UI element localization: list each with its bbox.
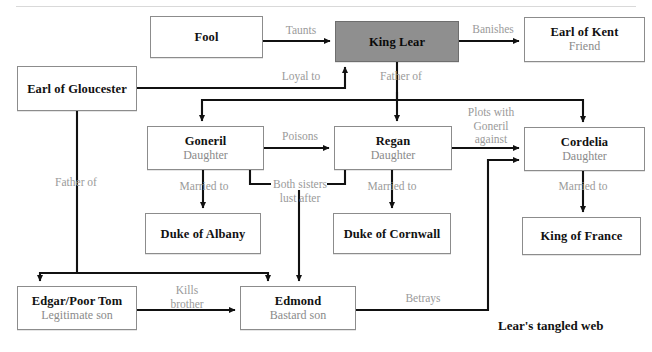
diagram-canvas: Fool King Lear Earl of Kent Friend Earl … bbox=[0, 0, 652, 352]
node-edmond-sub: Bastard son bbox=[270, 309, 326, 322]
node-king-lear-name: King Lear bbox=[369, 35, 425, 49]
node-edgar-poor-tom-sub: Legitimate son bbox=[41, 309, 113, 322]
edge-gloucester-father-edgar bbox=[40, 111, 77, 281]
edge-label-banishes: Banishes bbox=[462, 23, 524, 37]
edge-label-married-to-albany: Married to bbox=[168, 180, 240, 194]
edge-label-both-sisters-lust-after: Both sisters lust after bbox=[266, 178, 334, 205]
node-duke-of-cornwall-name: Duke of Cornwall bbox=[344, 227, 441, 241]
node-cordelia-name: Cordelia bbox=[561, 135, 608, 149]
node-regan-sub: Daughter bbox=[371, 149, 416, 162]
edge-label-taunts: Taunts bbox=[273, 24, 329, 38]
node-earl-of-kent-sub: Friend bbox=[569, 40, 600, 53]
edge-label-betrays: Betrays bbox=[395, 292, 451, 306]
node-earl-of-gloucester-name: Earl of Gloucester bbox=[27, 82, 127, 96]
edge-label-father-of-sons: Father of bbox=[45, 176, 107, 190]
node-edgar-poor-tom-name: Edgar/Poor Tom bbox=[32, 294, 122, 308]
node-earl-of-kent[interactable]: Earl of Kent Friend bbox=[524, 17, 645, 62]
node-king-of-france-name: King of France bbox=[541, 229, 623, 243]
node-earl-of-kent-name: Earl of Kent bbox=[551, 25, 619, 39]
node-edmond-name: Edmond bbox=[275, 294, 321, 308]
node-cordelia-sub: Daughter bbox=[562, 150, 607, 163]
node-goneril-name: Goneril bbox=[185, 134, 227, 148]
edge-label-father-of-daughters: Father of bbox=[370, 70, 432, 84]
node-regan[interactable]: Regan Daughter bbox=[334, 126, 452, 170]
node-duke-of-albany-name: Duke of Albany bbox=[161, 227, 246, 241]
node-duke-of-cornwall[interactable]: Duke of Cornwall bbox=[333, 213, 451, 254]
node-fool[interactable]: Fool bbox=[150, 16, 263, 58]
node-fool-name: Fool bbox=[194, 30, 218, 44]
diagram-caption: Lear's tangled web bbox=[498, 318, 603, 334]
edge-gloucester-father-edmond bbox=[77, 273, 268, 281]
edge-label-married-to-cornwall: Married to bbox=[356, 180, 428, 194]
node-goneril[interactable]: Goneril Daughter bbox=[147, 126, 264, 170]
edge-label-plots-with-goneril-against: Plots with Goneril against bbox=[458, 106, 524, 147]
node-king-of-france[interactable]: King of France bbox=[522, 217, 641, 255]
node-goneril-sub: Daughter bbox=[183, 149, 228, 162]
node-regan-name: Regan bbox=[376, 134, 411, 148]
edge-label-kills-brother: Kills brother bbox=[160, 284, 214, 311]
node-edmond[interactable]: Edmond Bastard son bbox=[240, 286, 356, 330]
node-king-lear[interactable]: King Lear bbox=[335, 21, 459, 62]
node-duke-of-albany[interactable]: Duke of Albany bbox=[145, 213, 261, 254]
edge-label-loyal-to: Loyal to bbox=[272, 70, 330, 84]
node-cordelia[interactable]: Cordelia Daughter bbox=[524, 127, 645, 171]
node-earl-of-gloucester[interactable]: Earl of Gloucester bbox=[17, 66, 137, 111]
node-edgar-poor-tom[interactable]: Edgar/Poor Tom Legitimate son bbox=[17, 286, 137, 330]
edge-label-married-to-france: Married to bbox=[547, 180, 619, 194]
edge-label-poisons: Poisons bbox=[272, 130, 328, 144]
